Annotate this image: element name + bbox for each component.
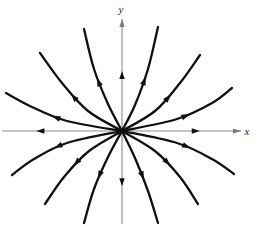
trajectory-q1-steep	[122, 27, 158, 131]
trajectory-q2-middle	[40, 53, 122, 131]
trajectory-arrowhead-q2-steep	[97, 78, 103, 87]
trajectory-q1-middle	[122, 55, 200, 131]
phase-portrait-figure: x y	[0, 0, 263, 228]
trajectory-arrowhead-q4-shallow	[182, 142, 191, 148]
trajectory-q3-middle	[45, 131, 122, 204]
trajectory-q4-steep	[122, 131, 158, 223]
trajectory-q3-steep	[84, 131, 122, 223]
axis-flow-arrowhead-axis-right	[192, 128, 200, 133]
trajectory-q2-steep	[84, 29, 122, 131]
axis-flow-arrowhead-axis-up	[119, 71, 124, 79]
trajectory-arrowhead-q4-steep	[138, 171, 144, 180]
trajectory-arrowhead-q1-shallow	[181, 114, 190, 120]
axis-flow-arrowhead-axis-down	[119, 178, 124, 186]
trajectories-group	[6, 27, 234, 223]
trajectory-arrowhead-q3-shallow	[54, 142, 63, 148]
x-axis-label: x	[244, 125, 250, 137]
trajectory-arrowhead-q2-shallow	[52, 116, 61, 122]
y-axis-terminal-arrowhead	[119, 19, 124, 27]
trajectory-arrowhead-q1-steep	[140, 77, 145, 86]
phase-portrait-canvas: x y	[0, 0, 263, 228]
trajectory-arrowhead-q3-steep	[98, 170, 104, 179]
y-axis-label: y	[118, 3, 124, 15]
axis-flow-arrowhead-axis-left	[36, 128, 44, 133]
trajectory-q3-shallow	[12, 131, 122, 175]
x-axis-terminal-arrowhead	[233, 128, 241, 133]
trajectory-q4-middle	[122, 131, 198, 204]
axes-group	[2, 19, 241, 224]
